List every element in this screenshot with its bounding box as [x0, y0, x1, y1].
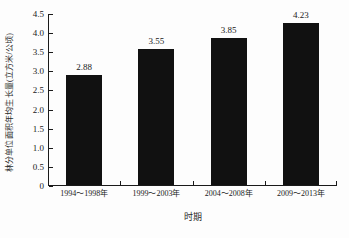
bar-chart: 林分单位面积年均生长量(立方米/公顷) 00.51.01.52.02.53.03… [0, 0, 349, 238]
y-axis-tick-mark [49, 167, 53, 168]
x-axis-tick-mark [48, 181, 49, 185]
y-axis-title-text: 林分单位面积年均生长量(立方米/公顷) [4, 33, 15, 172]
y-axis-tick-mark [49, 90, 53, 91]
x-axis-tick-label: 1999～2003年 [132, 190, 180, 198]
bar [283, 23, 319, 185]
y-axis-tick-mark [49, 186, 53, 187]
y-axis-tick-mark [49, 129, 53, 130]
y-axis-tick-mark [49, 14, 53, 15]
bar-value-label: 3.85 [221, 26, 237, 35]
x-axis-tick-mark [265, 181, 266, 185]
y-axis-tick-label: 3.5 [33, 48, 44, 57]
y-axis-tick-mark [49, 71, 53, 72]
bar [138, 49, 174, 185]
y-axis-tick-label: 2.0 [33, 105, 44, 114]
y-axis-tick-mark [49, 110, 53, 111]
x-axis-line [48, 185, 337, 186]
x-axis-title: 时期 [48, 210, 337, 223]
bar-value-label: 4.23 [293, 11, 309, 20]
y-axis-tick-labels: 00.51.01.52.02.53.03.54.04.5 [18, 14, 46, 186]
bar [66, 75, 102, 185]
x-axis-tick-labels: 1994～1998年1999～2003年2004～2008年2009～2013年 [48, 190, 337, 204]
y-axis-title: 林分单位面积年均生长量(立方米/公顷) [0, 0, 18, 205]
y-axis-tick-label: 0.5 [33, 162, 44, 171]
y-axis-tick-label: 4.5 [33, 10, 44, 19]
y-axis-tick-label: 4.0 [33, 29, 44, 38]
x-axis-tick-label: 2004～2008年 [205, 190, 253, 198]
y-axis-tick-mark [49, 148, 53, 149]
y-axis-line [48, 14, 49, 186]
x-axis-tick-mark [193, 181, 194, 185]
x-axis-tick-label: 1994～1998年 [60, 190, 108, 198]
plot-area: 2.883.553.854.23 [48, 14, 337, 186]
y-axis-tick-label: 0 [40, 182, 45, 191]
y-axis-tick-label: 3.0 [33, 67, 44, 76]
bar [211, 38, 247, 185]
x-axis-tick-mark [336, 181, 337, 185]
bar-value-label: 2.88 [76, 63, 92, 72]
y-axis-tick-label: 2.5 [33, 86, 44, 95]
y-axis-tick-label: 1.5 [33, 124, 44, 133]
y-axis-tick-mark [49, 52, 53, 53]
y-axis-tick-mark [49, 33, 53, 34]
x-axis-tick-label: 2009～2013年 [277, 190, 325, 198]
y-axis-tick-label: 1.0 [33, 143, 44, 152]
x-axis-tick-mark [120, 181, 121, 185]
bar-value-label: 3.55 [149, 37, 165, 46]
